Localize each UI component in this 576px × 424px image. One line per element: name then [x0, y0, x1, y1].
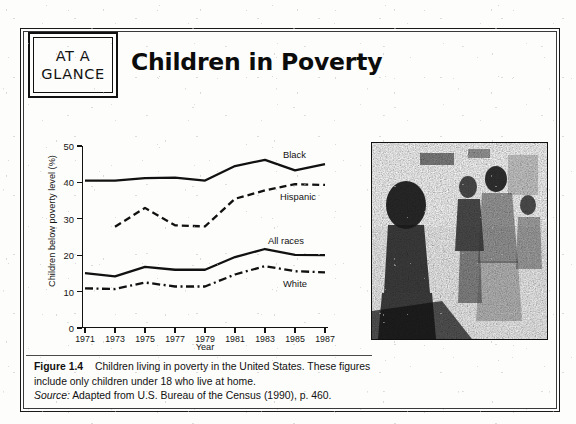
x-tick [114, 328, 115, 333]
series-label-all-races: All races [268, 235, 304, 246]
x-tick [234, 328, 235, 333]
y-tick [77, 291, 82, 292]
series-label-black: Black [283, 149, 306, 160]
at-a-glance-line2: GLANCE [41, 65, 104, 83]
y-tick-label: 20 [64, 250, 74, 261]
y-tick [77, 218, 82, 219]
y-tick [77, 145, 82, 146]
at-a-glance-box: AT A GLANCE [28, 32, 118, 98]
poverty-line-chart: Children below poverty level (%) 0102030… [34, 138, 364, 353]
figure-caption-text: Children living in poverty in the United… [34, 361, 370, 387]
y-tick-label: 30 [64, 213, 74, 224]
series-line-black [85, 160, 325, 181]
x-tick [294, 328, 295, 333]
caption-divider [26, 355, 372, 356]
y-tick-label: 40 [64, 177, 74, 188]
x-tick [324, 328, 325, 333]
figure-number: Figure 1.4 [34, 361, 83, 372]
y-tick [77, 255, 82, 256]
at-a-glance-line1: AT A [56, 47, 91, 65]
page-title: Children in Poverty [131, 48, 382, 76]
figure-caption: Figure 1.4 Children living in poverty in… [34, 360, 374, 404]
x-axis-label: Year [82, 342, 328, 352]
series-line-all-races [85, 249, 325, 276]
y-tick-label: 50 [64, 141, 74, 152]
y-tick-label: 10 [64, 286, 74, 297]
photo-halftone [372, 143, 547, 339]
x-tick [204, 328, 205, 333]
y-axis-label: Children below poverty level (%) [47, 145, 57, 297]
x-tick [264, 328, 265, 333]
source-text: Adapted from U.S. Bureau of the Census (… [72, 390, 331, 401]
series-label-hispanic: Hispanic [280, 191, 316, 202]
source-label: Source: [34, 390, 70, 401]
y-tick-label: 0 [69, 323, 74, 334]
y-tick [77, 182, 82, 183]
street-scene-photograph [371, 142, 548, 340]
x-tick [144, 328, 145, 333]
y-tick [77, 327, 82, 328]
series-label-white: White [283, 278, 307, 289]
x-tick [174, 328, 175, 333]
x-tick [84, 328, 85, 333]
